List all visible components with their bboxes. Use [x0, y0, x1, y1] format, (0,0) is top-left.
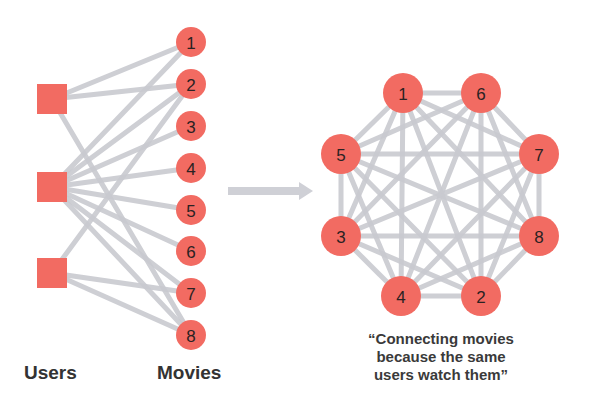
movies-label: Movies — [157, 362, 221, 384]
movie-node-label: 8 — [534, 228, 543, 247]
edge — [401, 93, 403, 296]
movie-node: 6 — [461, 73, 501, 113]
movie-node-label: 4 — [396, 288, 405, 307]
movie-node-label: 1 — [398, 85, 407, 104]
users-label: Users — [24, 362, 77, 384]
movie-node: 4 — [176, 153, 206, 183]
movie-node: 8 — [519, 216, 559, 256]
user-node — [37, 172, 67, 202]
movie-node: 6 — [176, 236, 206, 266]
user-node — [37, 84, 67, 114]
movie-node-label: 8 — [186, 327, 195, 346]
movie-node: 5 — [176, 195, 206, 225]
movie-node: 5 — [321, 134, 361, 174]
movie-node: 3 — [321, 216, 361, 256]
movie-node-label: 6 — [186, 243, 195, 262]
edge — [52, 187, 191, 335]
movie-node-label: 3 — [186, 118, 195, 137]
movie-node-label: 6 — [476, 85, 485, 104]
movie-node: 4 — [381, 276, 421, 316]
movie-node-label: 5 — [336, 146, 345, 165]
caption-line-2: because the same — [346, 348, 536, 366]
movie-node-label: 2 — [186, 76, 195, 95]
movie-node: 2 — [461, 276, 501, 316]
caption: “Connecting movies because the same user… — [346, 330, 536, 384]
caption-line-1: “Connecting movies — [346, 330, 536, 348]
movie-node: 7 — [519, 134, 559, 174]
movie-node-label: 4 — [186, 160, 195, 179]
movie-node: 7 — [176, 278, 206, 308]
movie-node-label: 7 — [534, 146, 543, 165]
movie-node: 1 — [383, 73, 423, 113]
movie-node-label: 3 — [336, 228, 345, 247]
projection-edges — [341, 93, 539, 296]
caption-line-3: users watch them” — [346, 366, 536, 384]
movie-node: 2 — [176, 69, 206, 99]
movie-node: 8 — [176, 320, 206, 350]
bipartite-edges — [52, 42, 191, 335]
movie-node: 1 — [176, 27, 206, 57]
movie-node-label: 1 — [186, 34, 195, 53]
movie-node-label: 5 — [186, 202, 195, 221]
movie-node-label: 7 — [186, 285, 195, 304]
movie-node: 3 — [176, 111, 206, 141]
movie-node-label: 2 — [476, 288, 485, 307]
user-node — [37, 258, 67, 288]
transform-arrow-icon — [228, 182, 313, 200]
